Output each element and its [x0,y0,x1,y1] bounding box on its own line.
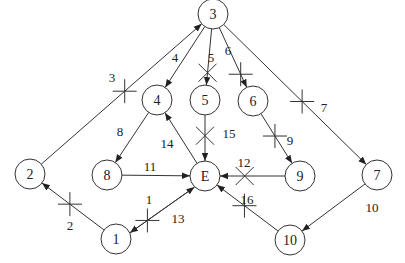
node-6: 6 [238,86,268,116]
x-cut-mark-icon [199,64,217,82]
edge-arrow [122,175,190,176]
node-2: 2 [15,159,45,189]
node-9: 9 [285,161,315,191]
cross-cut-mark-icon [229,62,253,86]
edge-label: 11 [144,159,157,174]
node-label: 8 [104,168,111,183]
edge-8-to-E: 11 [122,159,190,176]
edge-arrow [130,187,195,233]
edge-2-to-3: 3 [41,24,201,164]
nodes-layer: 345628E97110 [15,0,392,255]
edge-7-to-10: 10 [302,184,378,231]
edge-label: 7 [321,100,328,115]
node-10: 10 [275,225,305,255]
node-label: 2 [27,167,34,182]
node-3: 3 [198,0,228,29]
edge-5-to-E: 15 [196,115,236,161]
node-label: 4 [154,93,161,108]
node-label: 5 [202,93,209,108]
node-label: 3 [210,7,217,22]
edge-E-to-4: 14 [161,113,197,164]
edge-label: 15 [223,126,236,141]
edge-label: 6 [225,43,232,58]
node-1: 1 [101,224,131,254]
node-8: 8 [92,160,122,190]
edge-arrow [41,24,201,164]
edge-label: 3 [109,70,116,85]
node-label: 7 [374,168,381,183]
graph-diagram: 34567891514111210162113 345628E97110 [0,0,405,263]
edge-1-to-E: 13 [130,187,195,233]
node-label: 9 [297,169,304,184]
edge-label: 12 [238,155,251,170]
edge-arrow [302,184,365,231]
node-7: 7 [362,160,392,190]
edge-9-to-E: 12 [220,155,285,185]
node-label: 1 [113,232,120,247]
edge-label: 1 [146,192,153,207]
graph-canvas: 34567891514111210162113 345628E97110 [0,0,405,263]
edge-3-to-4: 4 [165,27,205,88]
node-4: 4 [142,85,172,115]
cross-cut-mark-icon [113,79,137,103]
edge-label: 5 [208,50,215,65]
edge-label: 9 [287,133,294,148]
edge-label: 4 [172,50,179,65]
edge-label: 14 [161,136,175,151]
edge-label: 13 [172,211,185,226]
edge-label: 10 [366,200,379,215]
cross-cut-mark-icon [58,192,82,216]
node-label: 10 [283,233,297,248]
edge-label: 16 [241,192,255,207]
node-E: E [190,161,220,191]
edge-10-to-E: 16 [217,185,278,231]
node-5: 5 [190,85,220,115]
node-label: E [201,169,210,184]
edge-4-to-8: 8 [115,112,148,162]
edge-label: 2 [67,218,74,233]
edges-layer: 34567891514111210162113 [41,24,378,233]
cross-cut-mark-icon [263,124,287,148]
edge-arrow [219,28,246,88]
edge-6-to-9: 9 [261,114,293,164]
edge-3-to-5: 5 [199,29,217,85]
edge-1-to-2: 2 [42,183,104,233]
node-label: 6 [250,94,257,109]
edge-label: 8 [117,124,124,139]
